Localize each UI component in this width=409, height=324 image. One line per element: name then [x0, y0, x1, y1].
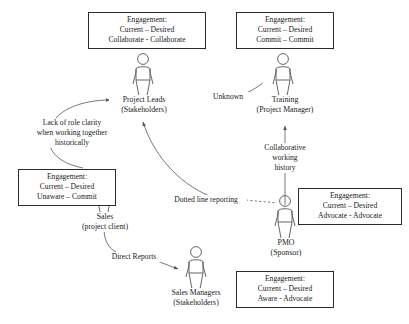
edge-label-role-clarity: Lack of role clarity when working togeth… [22, 118, 122, 148]
engagement-values: Aware - Advocate [241, 294, 329, 304]
node-label-project-leads: Project Leads (Stakeholders) [109, 95, 179, 115]
node-name: PMO [256, 238, 316, 248]
node-name: Project Leads [109, 95, 179, 105]
engagement-heading: Engagement: [303, 191, 397, 201]
edge-label-line: working [247, 153, 323, 163]
engagement-heading: Engagement: [241, 15, 329, 25]
edge-label-dotted-line-reporting: Dotted line reporting [165, 195, 247, 205]
edge-pmo-to-project-leads [143, 122, 215, 198]
node-role: (Sponsor) [256, 248, 316, 258]
engagement-values: Commit – Commit [241, 35, 329, 45]
edge-label-line: Direct Reports [103, 252, 165, 262]
edge-label-line: Dotted line reporting [165, 195, 247, 205]
engagement-scale: Current – Desired [241, 25, 329, 35]
person-icon-project-leads [133, 54, 153, 96]
edge-label-line: history [247, 163, 323, 173]
engagement-box-project-leads: Engagement: Current – Desired Collaborat… [88, 12, 206, 49]
engagement-values: Collaborate - Collaborate [93, 35, 201, 45]
node-role: (Project Manager) [248, 105, 322, 115]
engagement-box-training: Engagement: Current – Desired Commit – C… [236, 12, 334, 49]
engagement-scale: Current – Desired [93, 25, 201, 35]
node-label-training: Training (Project Manager) [248, 95, 322, 115]
engagement-values: Unaware – Commit [23, 192, 111, 202]
engagement-heading: Engagement: [23, 172, 111, 182]
engagement-heading: Engagement: [93, 15, 201, 25]
node-label-sales-managers: Sales Managers (Stakeholders) [156, 288, 236, 308]
person-icon-sales-managers [186, 247, 206, 289]
edge-label-line: when working together [22, 128, 122, 138]
node-role: (Stakeholders) [109, 105, 179, 115]
person-icon-training [273, 54, 293, 96]
node-name: Sales [70, 212, 140, 222]
engagement-scale: Current – Desired [303, 201, 397, 211]
engagement-box-sales-managers: Engagement: Current – Desired Aware - Ad… [236, 271, 334, 308]
node-role: (Stakeholders) [156, 298, 236, 308]
node-role: (project client) [70, 222, 140, 232]
node-name: Training [248, 95, 322, 105]
engagement-values: Advocate - Advocate [303, 211, 397, 221]
edge-label-line: historically [22, 138, 122, 148]
edge-dotted-reporting-segment [246, 200, 277, 203]
edge-label-line: Collaborative [247, 143, 323, 153]
engagement-scale: Current – Desired [241, 284, 329, 294]
edge-label-unknown: Unknown [207, 92, 249, 102]
edge-label-direct-reports: Direct Reports [103, 252, 165, 262]
node-label-sales: Sales (project client) [70, 212, 140, 232]
node-name: Sales Managers [156, 288, 236, 298]
edge-label-line: Unknown [207, 92, 249, 102]
diagram-canvas: Engagement: Current – Desired Collaborat… [0, 0, 409, 324]
edge-label-collaborative-history: Collaborative working history [247, 143, 323, 173]
node-label-pmo: PMO (Sponsor) [256, 238, 316, 258]
engagement-box-sales: Engagement: Current – Desired Unaware – … [18, 169, 116, 206]
engagement-box-pmo: Engagement: Current – Desired Advocate -… [298, 188, 402, 225]
engagement-heading: Engagement: [241, 274, 329, 284]
engagement-scale: Current – Desired [23, 182, 111, 192]
edge-label-line: Lack of role clarity [22, 118, 122, 128]
